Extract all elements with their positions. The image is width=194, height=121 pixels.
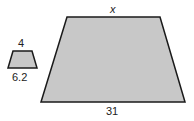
small-bottom-label: 6.2 <box>12 72 27 83</box>
large-top-label: x <box>110 4 116 15</box>
small-top-label: 4 <box>18 38 24 49</box>
diagram-canvas <box>0 0 194 121</box>
large-bottom-label: 31 <box>106 106 118 117</box>
large-trapezoid <box>41 17 185 102</box>
small-trapezoid <box>8 51 37 68</box>
